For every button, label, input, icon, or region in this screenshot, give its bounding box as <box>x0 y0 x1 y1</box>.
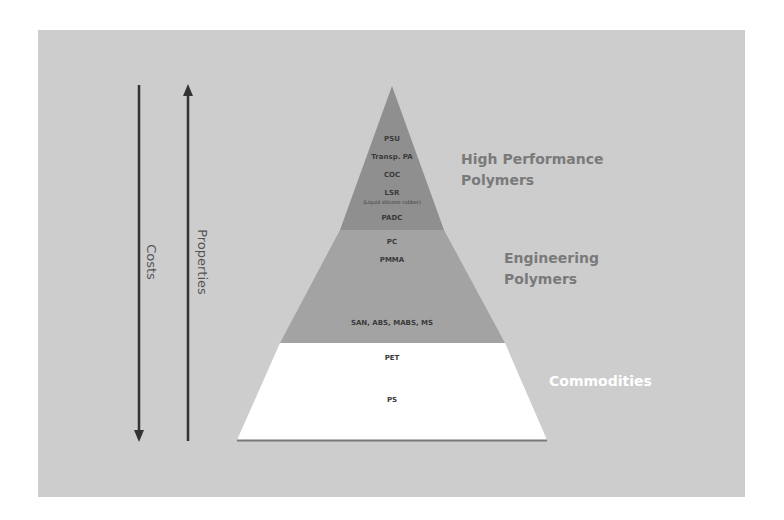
item-transp-pa: Transp. PA <box>371 153 412 161</box>
category-high-performance: High Performance Polymers <box>461 149 603 191</box>
category-commodities-line1: Commodities <box>549 371 652 392</box>
properties-label: Properties <box>195 229 210 295</box>
item-san-abs-mabs-ms: SAN, ABS, MABS, MS <box>351 319 433 327</box>
item-pmma: PMMA <box>380 256 404 264</box>
item-ps: PS <box>387 396 397 404</box>
category-engineering-line1: Engineering <box>504 248 599 269</box>
costs-label: Costs <box>144 244 159 280</box>
item-padc: PADC <box>382 214 403 222</box>
item-pc: PC <box>387 238 397 246</box>
item-coc: COC <box>384 171 400 179</box>
item-psu: PSU <box>384 135 400 143</box>
category-high-performance-line2: Polymers <box>461 170 603 191</box>
item-lsr-subtitle: (Liquid silicone rubber) <box>363 199 421 205</box>
category-engineering: Engineering Polymers <box>504 248 599 290</box>
category-commodities: Commodities <box>549 371 652 392</box>
properties-arrowhead-icon <box>183 84 193 96</box>
costs-arrowhead-icon <box>134 430 144 442</box>
item-lsr: LSR <box>385 189 400 197</box>
item-pet: PET <box>385 354 400 362</box>
category-engineering-line2: Polymers <box>504 269 599 290</box>
category-high-performance-line1: High Performance <box>461 149 603 170</box>
